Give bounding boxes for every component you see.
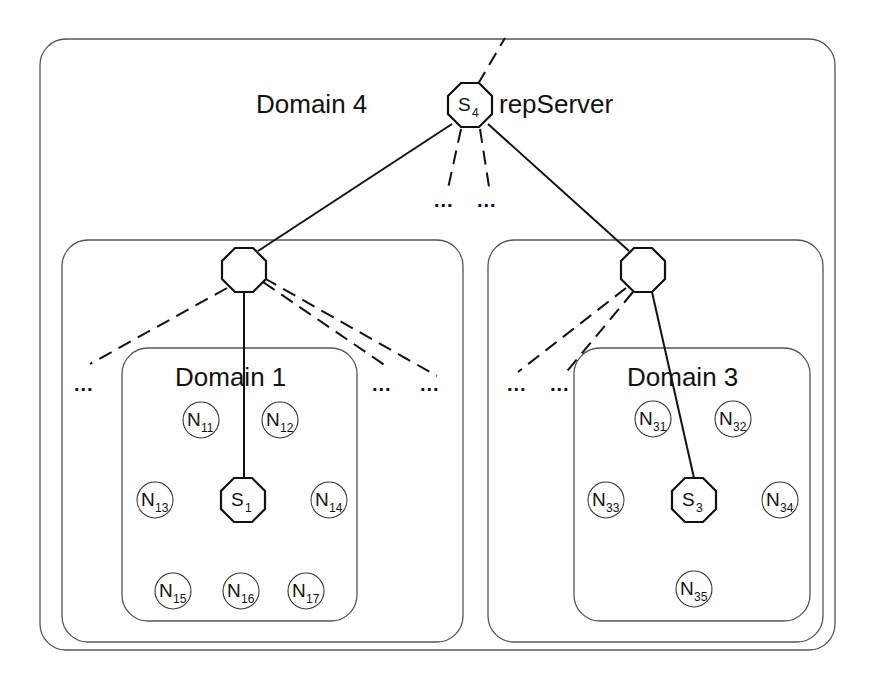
dashed-link-right-hub-ellipsis: [518, 288, 626, 372]
node-n33: N 33: [588, 482, 624, 518]
node-symbol: N: [719, 408, 733, 429]
node-symbol: N: [187, 409, 201, 430]
node-subscript: 34: [780, 501, 794, 515]
node-n15: N 15: [155, 573, 191, 609]
dashed-link-left-hub-ellipsis-2: [263, 282, 386, 366]
node-subscript: 15: [173, 592, 187, 606]
link-s4-left-hub: [258, 124, 452, 251]
node-symbol: N: [227, 580, 241, 601]
node-n31: N 31: [635, 401, 671, 437]
node-subscript: 32: [733, 420, 747, 434]
node-n11: N 11: [183, 402, 219, 438]
dashed-link-left-hub-ellipsis-3: [264, 278, 437, 376]
left-hub-server: [222, 248, 266, 292]
node-subscript: 12: [280, 421, 294, 435]
server-s3: S 3: [672, 478, 716, 522]
server-s4: S 4: [448, 83, 492, 127]
node-symbol: N: [141, 489, 155, 510]
node-subscript: 33: [606, 501, 620, 515]
node-symbol: N: [592, 489, 606, 510]
ellipsis-left-hub-left: ...: [74, 373, 94, 395]
node-n14: N 14: [311, 482, 347, 518]
octagon-server-icon: [621, 248, 665, 292]
server-s4-symbol: S: [458, 94, 471, 115]
server-s3-subscript: 3: [696, 501, 703, 515]
node-subscript: 17: [306, 592, 320, 606]
node-symbol: N: [315, 489, 329, 510]
node-subscript: 11: [201, 421, 214, 435]
domain-4-label: Domain 4: [256, 89, 367, 119]
dashed-link-s4-child-2: [480, 129, 490, 193]
node-n32: N 32: [715, 401, 751, 437]
octagon-server-icon: [222, 248, 266, 292]
node-symbol: N: [680, 578, 694, 599]
hierarchy-diagram: Domain 4 Domain 1 Domain 3 ... ... ... .…: [0, 0, 873, 684]
ellipsis-right-hub-2: ...: [550, 373, 570, 395]
node-subscript: 16: [241, 592, 255, 606]
node-n16: N 16: [223, 573, 259, 609]
node-symbol: N: [766, 489, 780, 510]
node-n35: N 35: [676, 571, 712, 607]
node-subscript: 13: [155, 501, 169, 515]
server-s1-symbol: S: [231, 489, 244, 510]
node-subscript: 31: [653, 420, 667, 434]
ellipsis-s4-child-1: ...: [434, 189, 454, 211]
right-hub-server: [621, 248, 665, 292]
node-n13: N 13: [137, 482, 173, 518]
dashed-link-s4-child-1: [447, 129, 461, 193]
node-symbol: N: [292, 580, 306, 601]
domain-3-label: Domain 3: [627, 362, 738, 392]
uplink-dashed-line: [478, 38, 505, 84]
dashed-link-left-hub-ellipsis: [90, 288, 227, 364]
domain-1-label: Domain 1: [175, 362, 286, 392]
node-n17: N 17: [288, 573, 324, 609]
node-symbol: N: [639, 408, 653, 429]
dashed-link-right-hub-ellipsis-2: [563, 292, 633, 376]
server-s4-subscript: 4: [472, 106, 479, 120]
ellipsis-left-hub-right-2: ...: [420, 373, 440, 395]
server-s1: S 1: [221, 478, 265, 522]
ellipsis-left-hub-right-1: ...: [372, 373, 392, 395]
server-s3-symbol: S: [682, 489, 695, 510]
ellipsis-right-hub-1: ...: [507, 373, 527, 395]
node-subscript: 14: [329, 501, 343, 515]
node-subscript: 35: [694, 590, 708, 604]
node-n34: N 34: [762, 482, 798, 518]
rep-server-label: repServer: [499, 89, 613, 119]
server-s1-subscript: 1: [245, 501, 252, 515]
node-n12: N 12: [262, 402, 298, 438]
node-symbol: N: [159, 580, 173, 601]
right-subdomain-box: [488, 240, 823, 642]
ellipsis-s4-child-2: ...: [477, 189, 497, 211]
node-symbol: N: [266, 409, 280, 430]
domain-4-box: [40, 39, 835, 650]
link-s4-right-hub: [488, 124, 629, 251]
